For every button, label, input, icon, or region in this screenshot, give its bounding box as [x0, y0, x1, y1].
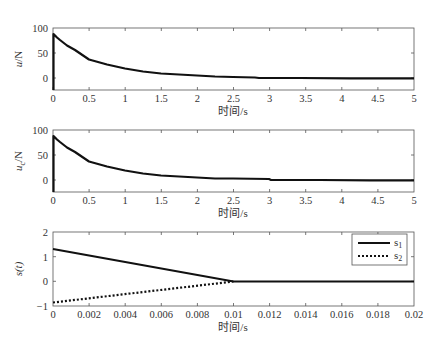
- svg-text:0.014: 0.014: [294, 309, 318, 320]
- svg-text:1.5: 1.5: [155, 93, 168, 104]
- svg-text:0: 0: [43, 276, 48, 287]
- svg-text:3.5: 3.5: [299, 195, 312, 206]
- plot-u-ytick-labels: 0 50 100: [32, 23, 48, 84]
- svg-text:0: 0: [43, 73, 48, 84]
- svg-text:5: 5: [411, 195, 416, 206]
- svg-text:50: 50: [38, 150, 49, 161]
- plot-u-ylabel: u/N: [12, 51, 24, 68]
- svg-text:0.008: 0.008: [186, 309, 210, 320]
- svg-text:0: 0: [50, 93, 55, 104]
- svg-text:5: 5: [411, 93, 416, 104]
- svg-text:0.01: 0.01: [224, 309, 242, 320]
- plot-s-xlabel: 时间/s: [218, 321, 247, 333]
- plot-uc-ytick-labels: 0 50 100: [32, 125, 48, 186]
- svg-text:0.004: 0.004: [113, 309, 137, 320]
- svg-text:4.5: 4.5: [371, 195, 384, 206]
- svg-text:0.02: 0.02: [405, 309, 423, 320]
- plot-uc-axes-box: [53, 130, 414, 192]
- svg-text:50: 50: [38, 48, 49, 59]
- svg-text:4: 4: [339, 93, 345, 104]
- svg-text:0.5: 0.5: [83, 93, 96, 104]
- svg-text:3: 3: [267, 93, 272, 104]
- plot-u-xtick-labels: 0 0.5 1 1.5 2 2.5 3 3.5 4 4.5 5: [50, 93, 416, 104]
- svg-text:0.016: 0.016: [330, 309, 354, 320]
- svg-text:0: 0: [50, 195, 55, 206]
- svg-text:1: 1: [123, 195, 128, 206]
- plot-s-xtick-labels: 0 0.002 0.004 0.006 0.008 0.01 0.012 0.0…: [50, 309, 423, 320]
- svg-text:0: 0: [43, 175, 48, 186]
- svg-text:0.012: 0.012: [258, 309, 282, 320]
- svg-text:3: 3: [267, 195, 272, 206]
- plot-uc-ylabel: uc/N: [12, 151, 27, 171]
- svg-text:0.5: 0.5: [83, 195, 96, 206]
- plot-s-legend: s1 s2: [352, 234, 407, 265]
- svg-text:2: 2: [43, 227, 48, 238]
- plot-s-ylabel: s(t): [12, 261, 25, 276]
- svg-text:−1: −1: [37, 301, 48, 312]
- svg-text:1: 1: [123, 93, 128, 104]
- figure: 0 0.5 1 1.5 2 2.5 3 3.5 4 4.5 5 0 50 100…: [0, 0, 435, 350]
- svg-text:0: 0: [50, 309, 55, 320]
- plot-u-axes-box: [53, 28, 414, 90]
- plot-u-xlabel: 时间/s: [218, 105, 247, 117]
- svg-text:0.006: 0.006: [149, 309, 173, 320]
- svg-text:2: 2: [195, 93, 200, 104]
- svg-text:4.5: 4.5: [371, 93, 384, 104]
- plot-u: 0 0.5 1 1.5 2 2.5 3 3.5 4 4.5 5 0 50 100…: [12, 23, 417, 117]
- svg-text:2.5: 2.5: [227, 93, 240, 104]
- svg-text:3.5: 3.5: [299, 93, 312, 104]
- svg-text:2: 2: [195, 195, 200, 206]
- plot-uc-xlabel: 时间/s: [218, 207, 247, 219]
- plot-uc: 0 0.5 1 1.5 2 2.5 3 3.5 4 4.5 5 0 50 100…: [12, 125, 417, 219]
- svg-text:2.5: 2.5: [227, 195, 240, 206]
- plot-s-ytick-labels: −1 0 1 2: [37, 227, 48, 312]
- svg-text:100: 100: [32, 125, 48, 136]
- svg-text:1.5: 1.5: [155, 195, 168, 206]
- svg-text:1: 1: [43, 252, 48, 263]
- plot-uc-xtick-labels: 0 0.5 1 1.5 2 2.5 3 3.5 4 4.5 5: [50, 195, 416, 206]
- plot-s: s1 s2 0 0.002 0.004 0.006 0.008 0.01 0.0…: [12, 227, 423, 333]
- svg-text:0.002: 0.002: [77, 309, 101, 320]
- svg-text:4: 4: [339, 195, 345, 206]
- svg-text:100: 100: [32, 23, 48, 34]
- svg-text:0.018: 0.018: [366, 309, 390, 320]
